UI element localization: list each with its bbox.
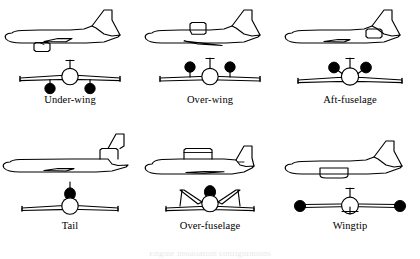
over-wing-front-view bbox=[160, 58, 260, 85]
over-fuselage-views bbox=[140, 128, 280, 228]
wingtip-front-view bbox=[294, 188, 405, 214]
cropped-caption-text: Engine installation configurations bbox=[0, 252, 420, 258]
diagram-cell-over-wing: Over-wing bbox=[140, 0, 280, 118]
diagram-cell-over-fuselage: Over-fuselage bbox=[140, 128, 280, 246]
diagram-cell-under-wing: Under-wing bbox=[0, 0, 140, 118]
cropped-caption-strip: Engine installation configurations bbox=[0, 252, 420, 259]
caption-over-wing: Over-wing bbox=[140, 94, 280, 106]
aft-fuselage-views bbox=[280, 0, 420, 100]
over-fuselage-front-view bbox=[166, 186, 254, 212]
aft-fuselage-side-view bbox=[285, 10, 400, 43]
tail-front-view bbox=[22, 182, 118, 214]
over-wing-side-view bbox=[145, 10, 260, 46]
under-wing-front-view bbox=[20, 60, 120, 94]
under-wing-views bbox=[0, 0, 140, 100]
caption-wingtip: Wingtip bbox=[280, 220, 420, 232]
caption-tail: Tail bbox=[0, 220, 140, 232]
over-fuselage-side-view bbox=[145, 146, 254, 174]
tail-side-view bbox=[3, 134, 128, 172]
tail-views bbox=[0, 128, 140, 228]
aft-fuselage-front-view bbox=[298, 58, 402, 85]
under-wing-side-view bbox=[5, 10, 120, 52]
diagram-cell-wingtip: Wingtip bbox=[280, 128, 420, 246]
caption-aft-fuselage: Aft-fuselage bbox=[280, 94, 420, 106]
caption-over-fuselage: Over-fuselage bbox=[140, 220, 280, 232]
caption-under-wing: Under-wing bbox=[0, 94, 140, 106]
over-wing-views bbox=[140, 0, 280, 100]
engine-configuration-figure: Under-wing bbox=[0, 0, 420, 259]
wingtip-side-view bbox=[285, 141, 402, 178]
wingtip-views bbox=[280, 128, 420, 228]
diagram-cell-aft-fuselage: Aft-fuselage bbox=[280, 0, 420, 118]
diagram-cell-tail: Tail bbox=[0, 128, 140, 246]
